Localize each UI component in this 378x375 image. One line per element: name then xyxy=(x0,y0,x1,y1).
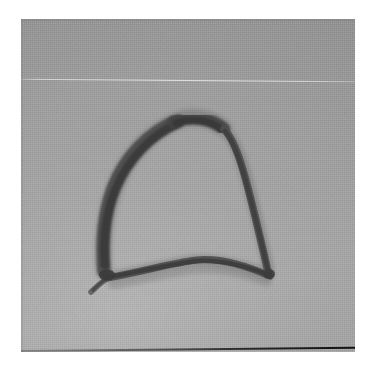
arch-drawing xyxy=(21,19,355,352)
left-junction-blob xyxy=(99,270,115,281)
photograph xyxy=(21,19,355,352)
stroke-arch-left-limb xyxy=(103,121,179,271)
ink-halo xyxy=(103,118,269,277)
stroke-arch-right-limb xyxy=(224,129,268,272)
screenshot-root xyxy=(0,0,378,375)
